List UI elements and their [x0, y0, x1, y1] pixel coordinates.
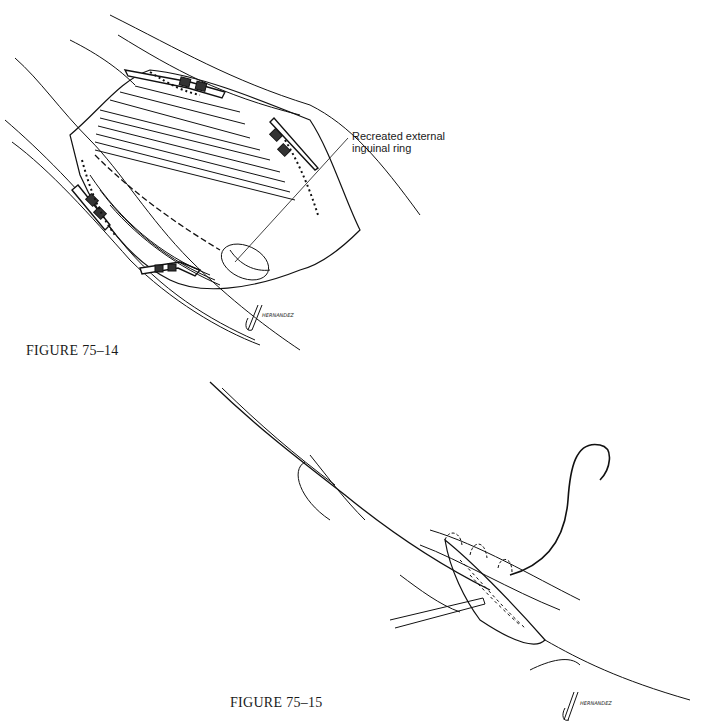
callout-recreated-external-inguinal-ring: Recreated external inguinal ring — [352, 130, 445, 154]
callout-line-1: Recreated external — [352, 130, 445, 142]
figure-label-75-14: FIGURE 75–14 — [26, 343, 119, 359]
artist-signature-fig-14: HERNANDEZ — [262, 312, 294, 318]
figure-label-75-15: FIGURE 75–15 — [230, 695, 323, 711]
artist-signature-fig-15: HERNANDEZ — [580, 700, 612, 706]
callout-line-2: inguinal ring — [352, 142, 445, 154]
figure-75-15-illustration — [0, 0, 703, 728]
